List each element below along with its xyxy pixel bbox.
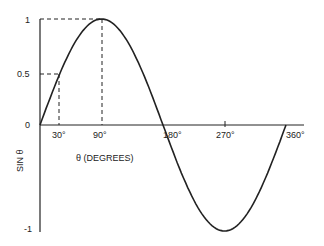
x-tick-180: 180° — [163, 130, 182, 140]
x-tick-360: 360° — [286, 130, 305, 140]
y-axis-label: SIN θ — [15, 149, 25, 172]
x-tick-270: 270° — [216, 130, 235, 140]
y-tick-1: 1 — [25, 15, 30, 25]
x-axis-label: θ (DEGREES) — [76, 153, 134, 163]
x-tick-90: 90° — [93, 130, 107, 140]
y-tick-neg1: -1 — [24, 224, 32, 234]
y-tick-0: 0 — [25, 120, 30, 130]
sine-chart: 1 0.5 0 -1 30° 90° 180° 270° 360° θ (DEG… — [0, 0, 324, 246]
y-tick-0.5: 0.5 — [17, 69, 30, 79]
x-tick-30: 30° — [52, 130, 66, 140]
